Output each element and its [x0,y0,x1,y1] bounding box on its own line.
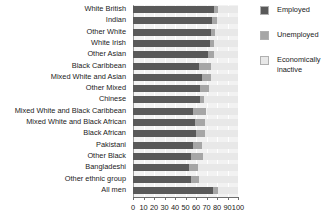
bar-segment-economically-inactive[interactable] [217,17,238,24]
bar-segment-employed[interactable] [133,51,208,58]
x-axis-tick-label: 80 [213,203,221,212]
bar-segment-economically-inactive[interactable] [214,40,238,47]
bar-segment-economically-inactive[interactable] [211,63,238,70]
category-label: Other White [87,28,126,36]
x-axis-tick-label: 30 [160,203,168,212]
bar-segment-unemployed[interactable] [193,108,207,115]
bar-row[interactable] [133,17,238,24]
bar-segment-employed[interactable] [133,85,200,92]
legend-label: Employed [277,5,310,15]
bar-segment-unemployed[interactable] [196,130,205,137]
bar-segment-employed[interactable] [133,187,213,194]
bar-segment-employed[interactable] [133,74,202,81]
x-axis-tick-label: 40 [171,203,179,212]
gridline [238,5,239,197]
x-axis-tick [133,197,134,200]
bar-segment-unemployed[interactable] [191,176,199,183]
bar-row[interactable] [133,119,238,126]
bar-segment-unemployed[interactable] [191,153,204,160]
bar-row[interactable] [133,130,238,137]
bar-segment-economically-inactive[interactable] [205,130,238,137]
bar-segment-employed[interactable] [133,96,200,103]
bar-row[interactable] [133,142,238,149]
x-axis-tick-label: 60 [192,203,200,212]
bar-segment-economically-inactive[interactable] [214,51,238,58]
chart-legend: EmployedUnemployedEconomically inactive [258,6,332,86]
bar-segment-employed[interactable] [133,17,212,24]
category-label: Mixed White and Asian [51,73,126,81]
bar-segment-unemployed[interactable] [199,63,211,70]
bar-row[interactable] [133,108,238,115]
category-label: White Irish [91,39,126,47]
bar-segment-employed[interactable] [133,164,189,171]
bar-row[interactable] [133,74,238,81]
bar-segment-unemployed[interactable] [200,85,208,92]
category-label: All men [101,186,126,194]
stacked-bar-chart: White BritishIndianOther WhiteWhite Iris… [0,0,252,224]
bar-row[interactable] [133,164,238,171]
bar-row[interactable] [133,40,238,47]
x-axis-tick-label: 20 [150,203,158,212]
bar-segment-economically-inactive[interactable] [204,96,238,103]
bar-segment-unemployed[interactable] [193,142,202,149]
bar-segment-unemployed[interactable] [195,119,206,126]
bar-segment-employed[interactable] [133,119,195,126]
category-label: White British [85,5,126,13]
category-label: Indian [106,16,126,24]
legend-label: Economically inactive [277,55,321,74]
category-label: Chinese [99,95,126,103]
bar-segment-unemployed[interactable] [189,164,198,171]
bar-segment-economically-inactive[interactable] [205,119,238,126]
category-axis-labels: White BritishIndianOther WhiteWhite Iris… [0,5,129,197]
bar-segment-economically-inactive[interactable] [211,74,238,81]
bar-row[interactable] [133,153,238,160]
bar-segment-employed[interactable] [133,142,193,149]
bar-segment-employed[interactable] [133,40,210,47]
x-axis-tick [144,197,145,200]
bar-segment-employed[interactable] [133,63,199,70]
legend-swatch-icon [260,31,269,40]
bar-segment-economically-inactive[interactable] [203,153,238,160]
x-axis-tick [186,197,187,200]
x-axis-tick [228,197,229,200]
x-axis-tick [238,197,239,200]
bar-segment-economically-inactive[interactable] [207,108,239,115]
bar-row[interactable] [133,29,238,36]
bar-row[interactable] [133,187,238,194]
x-axis-tick [207,197,208,200]
category-label: Pakistani [96,141,126,149]
bar-row[interactable] [133,6,238,13]
bar-segment-employed[interactable] [133,153,191,160]
category-label: Black African [83,129,126,137]
bar-segment-employed[interactable] [133,29,211,36]
bar-row[interactable] [133,85,238,92]
x-axis-tick [217,197,218,200]
bar-row[interactable] [133,176,238,183]
bar-segment-employed[interactable] [133,6,214,13]
x-axis-tick [196,197,197,200]
bar-segment-unemployed[interactable] [202,74,210,81]
bar-segment-economically-inactive[interactable] [218,187,238,194]
x-axis-tick-label: 50 [181,203,189,212]
bar-row[interactable] [133,63,238,70]
bar-segment-economically-inactive[interactable] [215,29,238,36]
x-axis-tick [175,197,176,200]
category-label: Other Mixed [86,84,126,92]
x-axis-tick-label: 100 [232,203,244,212]
bar-row[interactable] [133,51,238,58]
bar-segment-economically-inactive[interactable] [209,85,238,92]
bar-segment-economically-inactive[interactable] [218,6,238,13]
x-axis-tick [154,197,155,200]
bar-segment-economically-inactive[interactable] [198,164,238,171]
bar-segment-employed[interactable] [133,108,193,115]
bar-segment-employed[interactable] [133,176,191,183]
category-label: Mixed White and Black African [26,118,126,126]
x-axis-tick [165,197,166,200]
bar-segment-economically-inactive[interactable] [202,142,238,149]
bar-row[interactable] [133,96,238,103]
bar-segment-economically-inactive[interactable] [199,176,238,183]
plot-area [133,5,238,197]
x-axis-tick-label: 0 [131,203,135,212]
legend-label: Unemployed [277,30,319,40]
bar-segment-employed[interactable] [133,130,196,137]
